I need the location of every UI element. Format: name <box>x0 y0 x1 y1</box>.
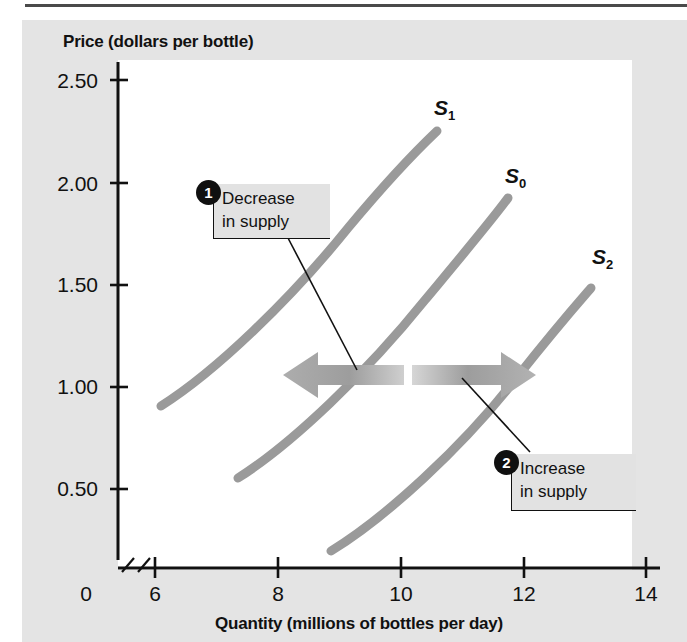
callout-1-line2: in supply <box>222 211 320 234</box>
curve-label-S1: S1 <box>434 96 455 123</box>
curve-label-S0-text: S <box>505 164 519 187</box>
callout-1-badge: 1 <box>196 180 221 205</box>
callout-2-line2: in supply <box>520 481 626 504</box>
supply-curve-S2 <box>331 288 591 551</box>
callout-decrease-in-supply: Decrease in supply <box>214 184 330 238</box>
curve-label-S0: S0 <box>505 164 526 191</box>
plot-graphics <box>0 0 687 642</box>
callout-increase-in-supply: Increase in supply <box>512 454 636 510</box>
curve-label-S2: S2 <box>592 245 613 272</box>
curve-label-S2-text: S <box>592 245 606 268</box>
callout-2-badge: 2 <box>494 450 519 475</box>
supply-shift-figure: Price (dollars per bottle) Quantity (mil… <box>0 0 687 642</box>
curve-label-S2-subscript: 2 <box>606 257 613 272</box>
curve-label-S1-text: S <box>434 96 448 119</box>
callout-1-line1: Decrease <box>222 188 320 211</box>
curve-label-S1-subscript: 1 <box>448 108 455 123</box>
callout-2-leader-line <box>462 378 530 452</box>
callout-2-line1: Increase <box>520 458 626 481</box>
curve-label-S0-subscript: 0 <box>519 176 526 191</box>
